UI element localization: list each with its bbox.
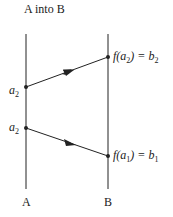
point-a-upper — [24, 85, 28, 89]
arrowhead-lower — [64, 139, 76, 146]
label-b-lower: f(a1) = b1 — [113, 148, 158, 164]
axis-label-a: A — [22, 195, 31, 210]
point-b-upper — [106, 55, 110, 59]
axis-label-b: B — [104, 195, 112, 210]
mapping-diagram — [0, 0, 173, 217]
label-b-upper: f(a2) = b2 — [113, 49, 158, 65]
label-a-lower: a2 — [9, 120, 19, 136]
label-a-upper: a2 — [9, 83, 19, 99]
point-b-lower — [106, 154, 110, 158]
point-a-lower — [24, 126, 28, 130]
